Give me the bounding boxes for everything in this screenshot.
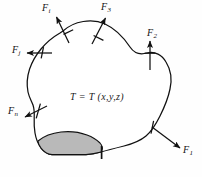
force-label-f-3: F3: [101, 2, 111, 14]
force-label-f-n-subscript: n: [14, 110, 18, 118]
force-label-f-i: Fi: [42, 3, 51, 15]
force-label-f-n: Fn: [8, 106, 18, 118]
diagram-canvas: [0, 0, 202, 177]
force-label-f-i-subscript: i: [48, 7, 50, 15]
force-diagram-figure: Fi F3 F2 Fj Fn F1 T = T (x,y,z): [0, 0, 202, 177]
force-label-f-2-subscript: 2: [153, 32, 157, 40]
force-label-f-1: F1: [183, 145, 193, 157]
force-label-f-j: Fj: [12, 45, 21, 57]
force-label-f-3-subscript: 3: [107, 6, 111, 14]
force-arrow-f-1: [152, 127, 180, 148]
force-label-f-1-subscript: 1: [189, 149, 193, 157]
temperature-field-equation: T = T (x,y,z): [70, 91, 124, 102]
force-label-f-j-subscript: j: [18, 49, 20, 57]
force-label-f-2: F2: [147, 28, 157, 40]
